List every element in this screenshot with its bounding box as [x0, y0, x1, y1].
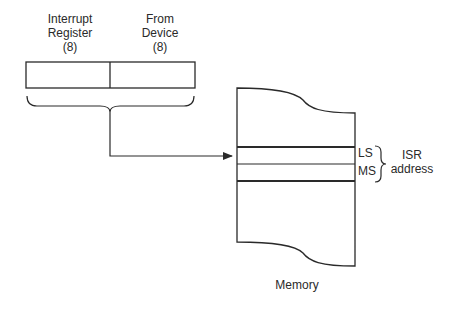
memory-caption: Memory [262, 278, 332, 292]
isr-brace-icon [375, 146, 386, 182]
field-label-line: From [120, 12, 200, 26]
register-brace-icon [27, 96, 194, 112]
entry-label-ms: MS [358, 164, 376, 178]
field-label-from-device: From Device (8) [120, 12, 200, 54]
field-label-line: Interrupt [30, 12, 110, 26]
field-label-line: Register [30, 26, 110, 40]
field-label-line: (8) [120, 40, 200, 54]
entry-label-ls: LS [358, 146, 373, 160]
field-label-line: (8) [30, 40, 110, 54]
memory-outline [237, 88, 355, 266]
pointer-arrow [110, 112, 232, 156]
isr-address-line: ISR [387, 148, 437, 162]
memory-block [237, 88, 355, 266]
register-box [26, 62, 195, 88]
isr-address-label: ISR address [387, 148, 437, 176]
isr-address-line: address [387, 162, 437, 176]
field-label-line: Device [120, 26, 200, 40]
field-label-interrupt-register: Interrupt Register (8) [30, 12, 110, 54]
